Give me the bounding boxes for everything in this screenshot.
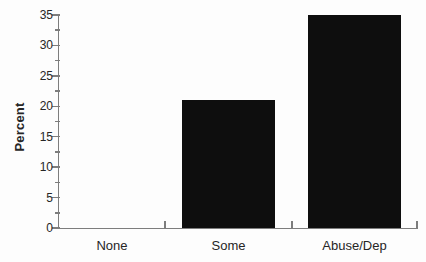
y-tick-minor (55, 121, 60, 123)
y-tick-minor (55, 182, 60, 184)
y-tick-minor (55, 90, 60, 92)
y-tick-major (52, 136, 60, 138)
y-tick-label: 10 (18, 159, 53, 175)
x-tick (291, 221, 293, 228)
x-tick (164, 221, 166, 228)
y-tick-minor (55, 29, 60, 31)
y-tick-label: 0 (18, 220, 53, 236)
y-tick-major (52, 14, 60, 16)
x-category-label: Some (169, 237, 289, 254)
y-tick-major (52, 227, 60, 229)
y-tick-label: 30 (18, 37, 53, 53)
y-tick-minor (55, 151, 60, 153)
y-tick-major (52, 197, 60, 199)
bar-some (182, 100, 275, 228)
y-tick-major (52, 45, 60, 47)
x-category-label: None (52, 237, 172, 254)
y-tick-label: 25 (18, 68, 53, 84)
x-tick (416, 221, 418, 228)
x-category-label: Abuse/Dep (295, 237, 415, 254)
y-tick-label: 5 (18, 190, 53, 206)
y-tick-label: 15 (18, 129, 53, 145)
y-tick-major (52, 75, 60, 77)
bar-chart: Percent 05101520253035NoneSomeAbuse/Dep (0, 0, 426, 262)
y-tick-label: 35 (18, 7, 53, 23)
y-tick-major (52, 106, 60, 108)
bar-abuse-dep (308, 15, 401, 228)
y-tick-label: 20 (18, 98, 53, 114)
y-tick-minor (55, 60, 60, 62)
y-tick-minor (55, 212, 60, 214)
y-tick-major (52, 166, 60, 168)
